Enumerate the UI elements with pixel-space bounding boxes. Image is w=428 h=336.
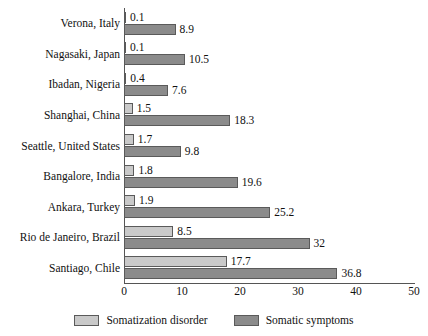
chart-legend: Somatization disorderSomatic symptoms [0, 308, 428, 332]
category-label: Shanghai, China [0, 109, 120, 121]
x-axis-line [124, 283, 415, 284]
x-tick-label: 10 [176, 285, 188, 298]
category-label: Ankara, Turkey [0, 201, 120, 213]
category-label: Seattle, United States [0, 140, 120, 152]
category-label: Nagasaki, Japan [0, 48, 120, 60]
category-label: Santiago, Chile [0, 262, 120, 274]
plot-area: 0.18.90.110.50.47.61.518.31.79.81.819.61… [124, 8, 414, 283]
bar-somatic-symptoms [124, 268, 337, 279]
x-tick-label: 20 [234, 285, 246, 298]
x-tick-label: 30 [292, 285, 304, 298]
bar-value-label: 36.8 [341, 268, 361, 280]
bar-chart: Verona, ItalyNagasaki, JapanIbadan, Nige… [0, 0, 428, 336]
category-label: Ibadan, Nigeria [0, 78, 120, 90]
category-label: Rio de Janeiro, Brazil [0, 231, 120, 243]
legend-item: Somatic symptoms [234, 314, 354, 326]
bar-value-label: 17.7 [231, 256, 251, 268]
bar-group: 17.736.8 [124, 8, 414, 283]
legend-item: Somatization disorder [74, 314, 207, 326]
bar-somatization-disorder [124, 256, 227, 267]
category-label: Verona, Italy [0, 17, 120, 29]
category-label: Bangalore, India [0, 170, 120, 182]
x-tick-label: 50 [408, 285, 420, 298]
x-axis-tick-labels: 01020304050 [124, 285, 415, 301]
x-tick-label: 0 [121, 285, 127, 298]
legend-swatch-icon [234, 315, 259, 326]
legend-label: Somatic symptoms [266, 314, 354, 326]
legend-label: Somatization disorder [106, 314, 207, 326]
legend-swatch-icon [74, 315, 99, 326]
x-tick-label: 40 [350, 285, 362, 298]
category-axis-labels: Verona, ItalyNagasaki, JapanIbadan, Nige… [0, 8, 120, 283]
